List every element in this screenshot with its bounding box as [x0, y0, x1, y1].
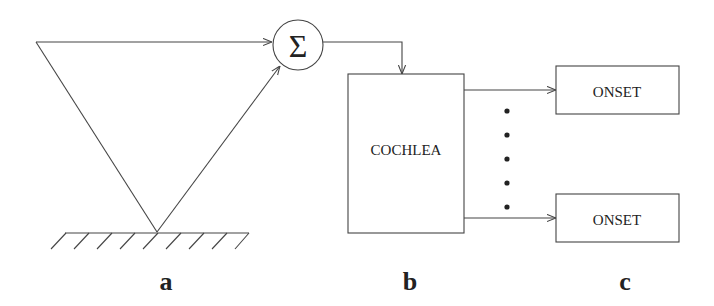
- ellipsis-dots: [504, 108, 509, 209]
- onset-block-bottom: ONSET: [556, 194, 679, 242]
- onset-label: ONSET: [593, 84, 641, 100]
- diagram: Σ COCHLEA ONSET ONSET a b c: [0, 0, 714, 306]
- summation-node: Σ: [273, 20, 323, 70]
- panel-label-a: a: [160, 267, 173, 296]
- panel-label-b: b: [403, 267, 417, 296]
- sum-to-cochlea-path: [323, 42, 402, 74]
- panel-label-c: c: [619, 267, 631, 296]
- incident-path: [36, 42, 157, 232]
- cochlea-label: COCHLEA: [371, 142, 442, 158]
- sum-symbol: Σ: [289, 28, 308, 64]
- cochlea-block: COCHLEA: [348, 74, 464, 233]
- onset-label: ONSET: [593, 212, 641, 228]
- ground-hatch: [51, 233, 249, 249]
- reflected-path: [157, 66, 280, 232]
- onset-block-top: ONSET: [556, 66, 679, 114]
- reflection-geometry: [36, 42, 280, 249]
